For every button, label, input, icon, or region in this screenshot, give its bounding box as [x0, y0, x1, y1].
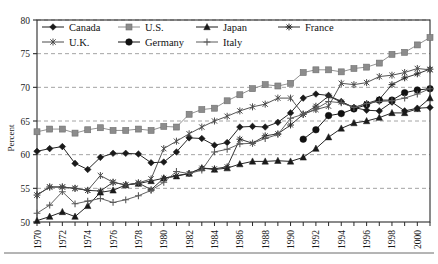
data-point-marker [300, 70, 306, 76]
x-tick-label: 1984 [210, 230, 220, 249]
x-tick-label: 1988 [261, 230, 271, 249]
data-point-marker [199, 107, 205, 113]
data-point-marker [313, 67, 319, 73]
data-point-marker [402, 49, 408, 55]
data-point-marker [224, 98, 230, 104]
data-point-marker [326, 67, 332, 73]
data-point-marker [300, 136, 307, 143]
y-tick-label: 65 [21, 117, 31, 127]
data-point-marker [126, 39, 133, 46]
data-point-marker [211, 105, 217, 111]
data-point-marker [34, 129, 40, 135]
data-point-marker [97, 125, 103, 131]
legend-label: Japan [223, 22, 248, 33]
data-point-marker [338, 110, 345, 117]
data-point-marker [72, 130, 78, 136]
data-point-marker [389, 81, 396, 88]
data-point-marker [148, 127, 154, 133]
data-point-marker [161, 123, 167, 129]
y-tick-label: 50 [21, 218, 31, 228]
x-tick-label: 1986 [235, 230, 245, 249]
data-point-marker [224, 163, 231, 170]
legend-label: Italy [223, 37, 243, 48]
data-point-marker [126, 24, 132, 30]
legend-label: U.S. [145, 22, 164, 33]
data-point-marker [173, 124, 179, 130]
legend-label: France [305, 22, 334, 33]
data-point-marker [97, 188, 104, 195]
data-point-marker [313, 126, 320, 133]
x-tick-label: 1980 [159, 230, 169, 249]
chart-figure: 50556065707580 1970197219741976197819801… [0, 0, 438, 264]
data-point-marker [135, 126, 141, 132]
data-point-marker [211, 165, 218, 172]
y-tick-label: 80 [21, 16, 31, 26]
y-tick-label: 75 [21, 49, 31, 59]
y-tick-label: 60 [21, 150, 31, 160]
data-point-marker [427, 35, 433, 41]
data-point-marker [351, 65, 357, 71]
data-point-marker [364, 64, 370, 70]
data-point-marker [186, 111, 192, 117]
data-point-marker [237, 92, 243, 98]
x-tick-label: 1990 [286, 230, 296, 249]
data-point-marker [338, 69, 344, 75]
legend-label: U.K. [69, 37, 89, 48]
data-point-marker [286, 24, 293, 31]
x-tick-label: 2000 [413, 230, 423, 249]
data-point-marker [389, 51, 395, 57]
x-tick-label: 1974 [83, 230, 93, 249]
data-point-marker [288, 80, 294, 86]
data-point-marker [85, 127, 91, 133]
data-point-marker [250, 86, 256, 92]
data-point-marker [287, 122, 294, 129]
x-tick-label: 1976 [109, 230, 119, 249]
y-tick-label: 70 [21, 83, 31, 93]
x-tick-label: 1992 [311, 230, 321, 249]
x-tick-label: 1994 [337, 230, 347, 249]
x-tick-label: 1982 [185, 230, 195, 249]
x-tick-label: 1970 [33, 230, 43, 249]
y-tick-label: 55 [21, 184, 31, 194]
data-point-marker [414, 42, 420, 48]
data-point-marker [376, 60, 382, 66]
x-tick-label: 1998 [387, 230, 397, 249]
data-point-marker [262, 82, 268, 88]
data-point-marker [123, 127, 129, 133]
legend-label: Canada [69, 22, 101, 33]
x-tick-label: 1996 [362, 230, 372, 249]
chart-background [0, 0, 438, 264]
data-point-marker [325, 112, 332, 119]
data-point-marker [275, 83, 281, 89]
y-axis-title: Percent [6, 124, 16, 151]
data-point-marker [59, 126, 65, 132]
line-chart-canvas: 50556065707580 1970197219741976197819801… [0, 0, 438, 264]
data-point-marker [47, 126, 53, 132]
legend-label: Germany [145, 37, 185, 48]
x-tick-label: 1978 [134, 230, 144, 249]
x-tick-label: 1972 [58, 230, 68, 249]
data-point-marker [110, 127, 116, 133]
